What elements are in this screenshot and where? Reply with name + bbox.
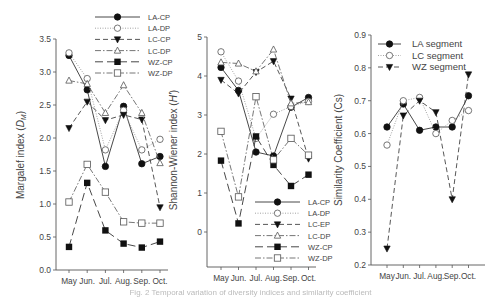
data-point — [270, 111, 276, 117]
data-point — [139, 161, 145, 167]
data-point — [102, 147, 108, 153]
legend-item: LA-CP — [255, 198, 330, 207]
series-la-dp — [218, 49, 312, 142]
series-lc-ep — [218, 59, 312, 163]
legend-item: WZ-CP — [255, 243, 333, 252]
legend-label: LA segment — [412, 38, 463, 49]
series-la-segment — [384, 93, 472, 134]
y-tick-label: 3.5 — [39, 34, 51, 44]
data-point — [102, 118, 108, 124]
legend-marker — [274, 199, 280, 205]
shannon-wiener-chart: 012345MayJun.Jul.Aug.Sep.Oct.Shannon-Wie… — [168, 32, 333, 283]
y-tick-label: 1 — [197, 188, 202, 198]
data-point — [465, 72, 471, 78]
data-point — [253, 149, 259, 155]
y-tick-label: 2 — [197, 149, 202, 159]
data-point — [157, 220, 163, 226]
data-point — [288, 183, 294, 189]
data-point — [433, 110, 439, 116]
data-point — [157, 160, 163, 166]
legend-item: LC-DP — [255, 232, 331, 241]
legend-marker — [386, 41, 392, 47]
figure: 0.00.51.01.52.02.53.03.5MayJun.Jul.Aug.S… — [0, 0, 501, 304]
y-tick-label: 0.0 — [39, 265, 51, 275]
legend-item: LA-DP — [95, 24, 170, 33]
data-point — [84, 180, 90, 186]
data-point — [449, 117, 455, 123]
legend-item: LA-CP — [95, 13, 170, 22]
series-lc-cp — [66, 99, 163, 211]
margalef-chart: 0.00.51.01.52.02.53.03.5MayJun.Jul.Aug.S… — [15, 13, 173, 286]
legend-marker — [114, 70, 120, 76]
data-point — [102, 163, 108, 169]
data-point — [102, 227, 108, 233]
data-point — [157, 205, 163, 211]
data-point — [218, 77, 224, 83]
data-point — [305, 152, 311, 158]
data-point — [270, 59, 276, 65]
figure-canvas: 0.00.51.01.52.02.53.03.5MayJun.Jul.Aug.S… — [0, 0, 501, 304]
data-point — [139, 147, 145, 153]
data-point — [400, 113, 406, 119]
x-tick-labels: MayJun.Jul.Aug.Sep.Oct. — [379, 271, 476, 281]
legend-marker — [114, 37, 120, 43]
data-point — [270, 46, 276, 52]
data-point — [288, 135, 294, 141]
series-lc-dp — [218, 46, 312, 106]
data-point — [120, 219, 126, 225]
data-point — [235, 78, 241, 84]
data-point — [66, 77, 72, 83]
data-point — [384, 246, 390, 252]
legend-item: LC segment — [378, 50, 464, 61]
legend-label: LA-CP — [308, 198, 330, 207]
y-axis-label: Similarity Coefficient (Cs) — [333, 94, 344, 206]
legend-marker — [274, 222, 280, 228]
legend-marker — [114, 59, 120, 65]
data-point — [218, 49, 224, 55]
data-point — [305, 171, 311, 177]
y-tick-label: 0.8 — [354, 63, 366, 73]
legend-marker — [274, 210, 280, 216]
y-tick-label: 0.3 — [354, 227, 366, 237]
series-lc-segment — [384, 94, 472, 148]
series-la-cp — [218, 64, 312, 159]
y-tick-label: 0.6 — [354, 129, 366, 139]
series-wz-dp — [218, 93, 312, 200]
legend-marker — [114, 47, 120, 53]
data-point — [235, 91, 241, 97]
legend-item: LC-EP — [255, 220, 330, 229]
data-point — [384, 142, 390, 148]
data-point — [139, 244, 145, 250]
y-axis-label: Shannon-Wiener index (H') — [168, 90, 179, 210]
y-tick-label: 0.2 — [354, 260, 366, 270]
y-tick-label: 4 — [197, 71, 202, 81]
legend-marker — [114, 25, 120, 31]
data-point — [416, 127, 422, 133]
legend-marker — [274, 232, 280, 238]
x-tick-labels: MayJun.Jul.Aug.Sep.Oct. — [61, 276, 167, 286]
legend-item: LC-DP — [95, 47, 171, 56]
legend-item: WZ-CP — [95, 58, 173, 67]
y-tick-label: 2.0 — [39, 133, 51, 143]
data-point — [400, 98, 406, 104]
data-point — [157, 238, 163, 244]
legend: LA-CPLA-DPLC-EPLC-DPWZ-CPWZ-DP — [255, 198, 333, 263]
data-point — [120, 82, 126, 88]
data-point — [235, 220, 241, 226]
legend-marker — [274, 244, 280, 250]
legend-label: LC-EP — [308, 220, 330, 229]
legend-label: LA-DP — [148, 24, 170, 33]
legend-label: WZ-DP — [148, 69, 173, 78]
series-wz-cp — [218, 133, 312, 226]
data-point — [66, 244, 72, 250]
legend-label: LA-DP — [308, 209, 330, 218]
data-point — [66, 199, 72, 205]
data-point — [449, 124, 455, 130]
data-point — [102, 189, 108, 195]
legend-label: LC-CP — [148, 35, 171, 44]
legend-label: LC-DP — [308, 232, 331, 241]
data-point — [384, 124, 390, 130]
legend-label: LC-DP — [148, 47, 171, 56]
data-point — [433, 130, 439, 136]
x-tick-labels: MayJun.Jul.Aug.Sep.Oct. — [213, 273, 316, 283]
